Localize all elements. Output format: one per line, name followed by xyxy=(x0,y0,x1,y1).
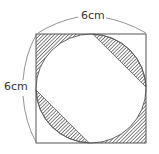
dimension-arc-top xyxy=(38,17,78,33)
dimension-arc-left xyxy=(23,35,36,80)
shaded-corner-bottom-right xyxy=(91,89,146,144)
shaded-corner-top-left xyxy=(36,34,91,89)
side-length-label-left: 6cm xyxy=(3,81,29,93)
geometry-figure xyxy=(0,0,159,154)
dimension-arc-left-bottom xyxy=(23,96,36,142)
side-length-label-top: 6cm xyxy=(80,10,106,22)
dimension-arc-top-right xyxy=(102,17,146,33)
